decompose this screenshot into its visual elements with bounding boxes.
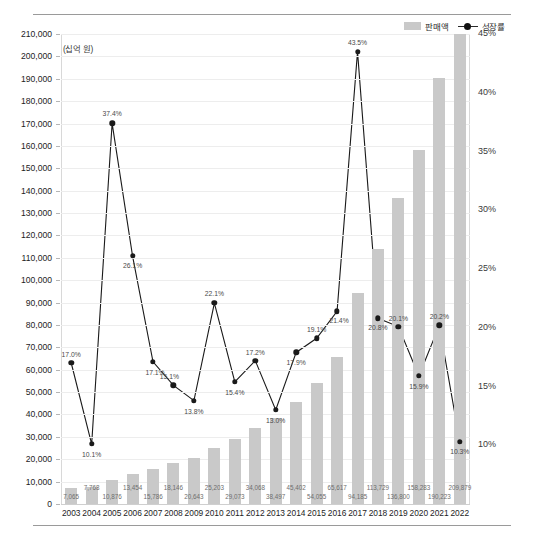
growth-value-label: 22.1% [205, 290, 224, 297]
y-axis-tick-label: 100,000 [0, 275, 52, 285]
bar-value-label: 190,223 [428, 493, 451, 500]
y-axis-tick-mark [56, 79, 60, 80]
y-axis-tick-mark [56, 34, 60, 35]
bottom-divider [33, 525, 511, 526]
growth-value-label: 13.8% [184, 408, 203, 415]
y2-axis-tick-label: 35% [478, 146, 518, 156]
gridline [61, 482, 470, 483]
y-axis-tick-mark [56, 280, 60, 281]
x-axis-tick-label: 2011 [226, 508, 244, 518]
bar-value-label: 18,146 [164, 484, 183, 491]
bar-2019[interactable] [392, 198, 404, 504]
x-axis-tick-label: 2014 [287, 508, 306, 518]
y-axis-tick-label: 80,000 [0, 320, 52, 330]
y-axis-tick-mark [56, 370, 60, 371]
y-axis-tick-label: 110,000 [0, 253, 52, 263]
bar-value-label: 34,068 [246, 484, 265, 491]
bar-value-label: 94,185 [348, 493, 367, 500]
y-axis-tick-mark [56, 146, 60, 147]
y2-axis-tick-label: 40% [478, 87, 518, 97]
gridline [61, 280, 470, 281]
x-axis-tick-label: 2007 [144, 508, 163, 518]
gridline [61, 235, 470, 236]
bar-2016[interactable] [331, 357, 343, 504]
y-axis-tick-label: 160,000 [0, 141, 52, 151]
gridline [61, 191, 470, 192]
bar-2010[interactable] [208, 448, 220, 504]
gridline [61, 504, 470, 505]
y2-axis-tick-label: 25% [478, 263, 518, 273]
y-axis-tick-label: 150,000 [0, 163, 52, 173]
x-axis-tick-label: 2009 [185, 508, 204, 518]
growth-value-label: 17.9% [287, 359, 306, 366]
x-axis-tick-label: 2008 [164, 508, 183, 518]
growth-value-label: 37.4% [102, 110, 121, 117]
y-axis-tick-label: 30,000 [0, 432, 52, 442]
bar-value-label: 15,786 [143, 493, 162, 500]
y-axis-tick-label: 10,000 [0, 477, 52, 487]
bar-2022[interactable] [454, 34, 466, 504]
y-axis-tick-label: 120,000 [0, 230, 52, 240]
gridline [61, 303, 470, 304]
growth-value-label: 13.0% [266, 417, 285, 424]
y-axis-tick-mark [56, 101, 60, 102]
growth-line-dot-icon [458, 22, 478, 30]
y-axis-tick-label: 0 [0, 499, 52, 509]
legend-item-sales[interactable]: 판매액 [404, 20, 448, 32]
y-axis-tick-label: 130,000 [0, 208, 52, 218]
y-axis-tick-label: 40,000 [0, 409, 52, 419]
gridline [61, 437, 470, 438]
bar-2005[interactable] [106, 480, 118, 504]
growth-value-label: 10.3% [450, 448, 469, 455]
y-axis-tick-label: 70,000 [0, 342, 52, 352]
bar-value-label: 136,800 [387, 493, 410, 500]
x-axis-tick-label: 2004 [82, 508, 101, 518]
x-axis-tick-label: 2021 [430, 508, 449, 518]
y-axis-tick-label: 210,000 [0, 29, 52, 39]
bar-value-label: 25,203 [205, 484, 224, 491]
y-axis-tick-mark [56, 347, 60, 348]
bar-2013[interactable] [270, 418, 282, 504]
y2-axis-tick-label: 30% [478, 204, 518, 214]
y2-axis-tick-label: 20% [478, 322, 518, 332]
gridline [61, 213, 470, 214]
gridline [61, 258, 470, 259]
bar-value-label: 10,876 [102, 493, 121, 500]
growth-value-label: 19.1% [307, 326, 326, 333]
x-axis-tick-label: 2016 [328, 508, 347, 518]
y-axis-tick-label: 170,000 [0, 119, 52, 129]
gridline [61, 124, 470, 125]
gridline [61, 370, 470, 371]
bar-value-label: 158,283 [407, 484, 430, 491]
y2-axis-tick-label: 10% [478, 439, 518, 449]
y-axis-tick-mark [56, 437, 60, 438]
bar-value-label: 113,729 [367, 484, 389, 491]
bar-value-label: 7,065 [63, 493, 79, 500]
y-axis-tick-mark [56, 303, 60, 304]
bar-2012[interactable] [249, 428, 261, 504]
gridline [61, 347, 470, 348]
y-axis-tick-mark [56, 168, 60, 169]
y-axis-tick-label: 140,000 [0, 186, 52, 196]
bar-value-label: 65,617 [327, 484, 346, 491]
bar-2020[interactable] [413, 150, 425, 504]
gridline [61, 325, 470, 326]
chart-page: 판매액 성장률 (십억 원) 010,00020,00030,00040,000… [0, 0, 541, 539]
growth-value-label: 15.1% [160, 373, 179, 380]
bar-2017[interactable] [352, 293, 364, 504]
y-axis-tick-label: 190,000 [0, 74, 52, 84]
y-axis-tick-mark [56, 325, 60, 326]
gridline [61, 168, 470, 169]
bar-2018[interactable] [372, 249, 384, 504]
growth-value-label: 20.2% [430, 313, 449, 320]
bar-2015[interactable] [311, 383, 323, 504]
y-axis-tick-label: 90,000 [0, 298, 52, 308]
y-axis-tick-label: 180,000 [0, 96, 52, 106]
y-axis-tick-mark [56, 414, 60, 415]
x-axis-tick-label: 2020 [410, 508, 429, 518]
bar-value-label: 54,055 [307, 493, 326, 500]
bar-2021[interactable] [433, 78, 445, 504]
x-axis-tick-label: 2022 [450, 508, 469, 518]
growth-value-label: 43.5% [348, 39, 367, 46]
growth-value-label: 20.8% [368, 324, 387, 331]
